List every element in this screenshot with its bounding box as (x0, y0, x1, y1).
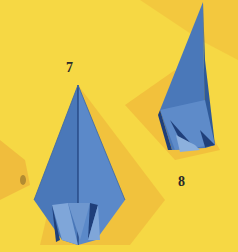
dark-spot (20, 175, 26, 185)
step-number-8: 8 (178, 175, 185, 189)
photo-scene (0, 0, 238, 252)
step-number-7: 7 (66, 61, 73, 75)
